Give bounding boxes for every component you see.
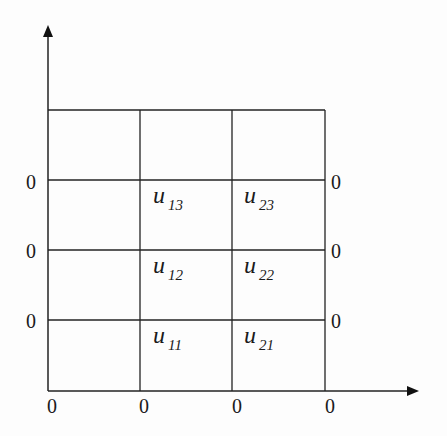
bottom-boundary-label: 0 bbox=[232, 396, 242, 416]
left-boundary-label: 0 bbox=[26, 311, 36, 331]
x-axis-arrow-icon bbox=[407, 386, 419, 396]
cell-u11: u11 bbox=[153, 322, 179, 349]
cell-u12: u12 bbox=[153, 252, 180, 279]
right-boundary-label: 0 bbox=[331, 241, 341, 261]
grid-lines bbox=[0, 0, 447, 436]
cell-u21: u21 bbox=[244, 322, 271, 349]
right-boundary-label: 0 bbox=[331, 311, 341, 331]
grid-diagram: 0 0 0 0 0 0 0 0 0 0 u13 u23 u12 u22 u11 … bbox=[0, 0, 447, 436]
bottom-boundary-label: 0 bbox=[139, 396, 149, 416]
cell-u23: u23 bbox=[244, 182, 271, 209]
cell-u22: u22 bbox=[244, 252, 271, 279]
y-axis-arrow-icon bbox=[43, 25, 53, 37]
right-boundary-label: 0 bbox=[331, 172, 341, 192]
cell-u13: u13 bbox=[153, 182, 180, 209]
bottom-boundary-label: 0 bbox=[47, 396, 57, 416]
bottom-boundary-label: 0 bbox=[325, 396, 335, 416]
left-boundary-label: 0 bbox=[26, 172, 36, 192]
left-boundary-label: 0 bbox=[26, 241, 36, 261]
